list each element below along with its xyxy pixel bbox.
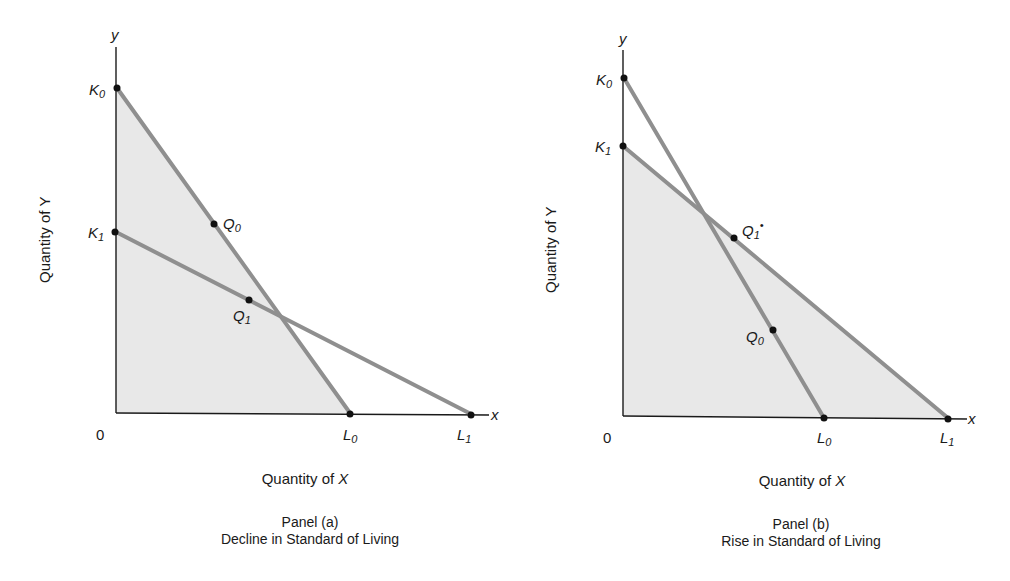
panel-a-label-q0: Q0 (223, 215, 242, 234)
panel-a-point-q1 (246, 297, 253, 304)
panel-b-label-k1: K1 (595, 138, 611, 157)
panel-b-origin-label: 0 (603, 429, 611, 446)
panel-b: y x 0 K0 K1 Q1• Q0 L0 L1 Quantity of Y (542, 30, 976, 448)
panel-a-title: Panel (a) (170, 514, 450, 531)
panel-b-point-k1 (620, 143, 627, 150)
panel-b-caption: Panel (b) Rise in Standard of Living (661, 516, 941, 550)
panel-b-label-k0: K0 (596, 71, 613, 90)
panel-a-point-q0 (211, 221, 218, 228)
panel-b-x-axis-name: x (967, 410, 976, 427)
panel-a-label-k1: K1 (88, 224, 104, 243)
panel-a-x-axis-label-var: X (338, 470, 348, 487)
panel-b-title: Panel (b) (661, 516, 941, 533)
panel-b-label-l1: L1 (940, 429, 954, 448)
panel-b-point-k0 (621, 75, 628, 82)
panel-a-origin-label: 0 (96, 426, 104, 443)
panel-a-label-l0: L0 (343, 426, 358, 445)
panel-a: y x 0 K0 K1 Q0 Q1 L0 L1 Quantity of Y (36, 26, 499, 445)
panel-b-x-axis-label: Quantity of X (707, 472, 897, 489)
panel-b-point-q1-star (731, 235, 738, 242)
panel-b-x-axis-label-prefix: Quantity of (759, 472, 836, 489)
panel-b-label-q1-star: Q1• (742, 219, 764, 241)
panel-a-x-axis-label-prefix: Quantity of (262, 470, 339, 487)
panel-a-subtitle: Decline in Standard of Living (170, 531, 450, 548)
panel-b-x-axis-label-var: X (835, 472, 845, 489)
panel-a-x-axis-name: x (490, 406, 499, 423)
panel-a-point-l1 (468, 412, 475, 419)
panel-a-x-axis-label: Quantity of X (210, 470, 400, 487)
panel-b-point-l1 (945, 416, 952, 423)
diagram-canvas: y x 0 K0 K1 Q0 Q1 L0 L1 Quantity of Y y … (0, 0, 1010, 581)
panel-b-subtitle: Rise in Standard of Living (661, 533, 941, 550)
panel-b-label-l0: L0 (817, 429, 832, 448)
panel-a-label-k0: K0 (89, 81, 106, 100)
panel-a-label-l1: L1 (457, 426, 471, 445)
panel-a-point-l0 (347, 411, 354, 418)
panel-a-caption: Panel (a) Decline in Standard of Living (170, 514, 450, 548)
panel-a-y-axis-name: y (110, 26, 120, 43)
panel-a-y-axis-label: Quantity of Y (36, 197, 53, 283)
panel-b-point-q0 (770, 327, 777, 334)
panel-a-x-axis (116, 413, 489, 415)
panel-b-y-axis-label: Quantity of Y (542, 207, 559, 293)
panel-b-point-l0 (821, 415, 828, 422)
panel-a-point-k0 (114, 85, 121, 92)
panel-b-y-axis-name: y (618, 30, 628, 47)
panel-a-point-k1 (112, 229, 119, 236)
